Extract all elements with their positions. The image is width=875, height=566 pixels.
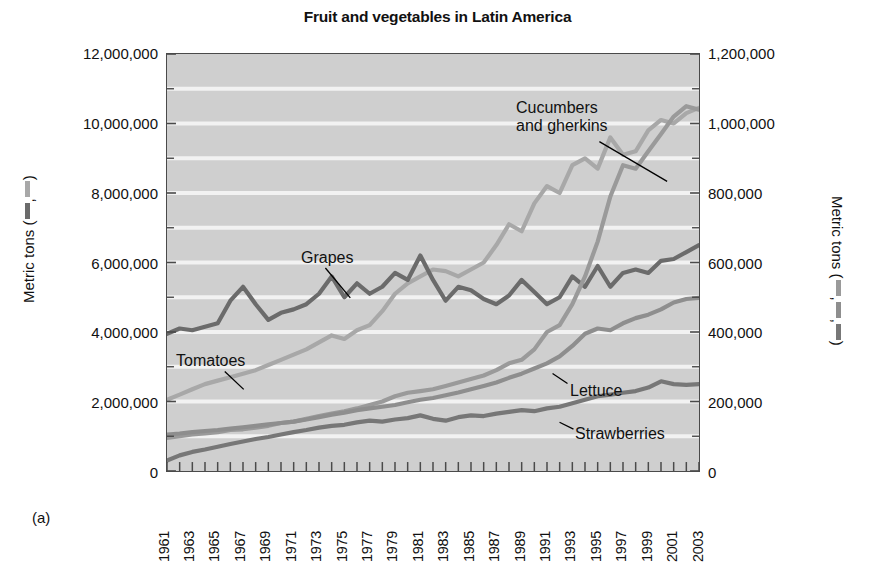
x-tick-label: 1997 [613,531,629,562]
right-tick-label: 400,000 [708,324,762,341]
x-tick-label: 1987 [486,531,502,562]
left-tick-label: 0 [150,464,158,481]
right-axis-title-sep2: , [829,319,846,323]
left-tick-label: 6,000,000 [91,254,158,271]
left-tick-label: 2,000,000 [91,394,158,411]
right-tick-label: 200,000 [708,394,762,411]
x-tick-label: 2003 [690,531,706,562]
series-label-tomatoes: Tomatoes [176,352,245,370]
right-axis-title-suffix: ) [829,341,846,346]
legend-swatch-grapes [25,203,30,219]
series-label-line1: Cucumbers [516,99,608,117]
x-tick-label: 1965 [206,531,222,562]
x-tick-label: 1973 [308,531,324,562]
left-tick-label: 12,000,000 [83,45,158,62]
chart-figure: Fruit and vegetables in Latin America 02… [0,0,875,566]
right-axis-title-prefix: Metric tons ( [829,196,846,279]
x-tick-label: 1983 [435,531,451,562]
x-tick-label: 1989 [512,531,528,562]
x-tick-label: 1995 [588,531,604,562]
series-line-grapes [167,245,699,334]
left-tick-label: 4,000,000 [91,324,158,341]
right-tick-label: 800,000 [708,184,762,201]
legend-swatch-lettuce [836,302,841,318]
left-tick-label: 10,000,000 [83,114,158,131]
x-tick-label: 1999 [639,531,655,562]
legend-swatch-tomatoes [25,181,30,197]
series-label-strawberries: Strawberries [575,425,665,443]
right-tick-label: 1,200,000 [708,45,775,62]
left-tick-label: 8,000,000 [91,184,158,201]
right-axis-title-sep1: , [829,297,846,301]
right-tick-label: 1,000,000 [708,114,775,131]
series-line-tomatoes [167,108,699,400]
x-tick-label: 1969 [257,531,273,562]
x-tick-label: 1991 [537,531,553,562]
x-axis-tick-labels: 1961196319651967196919711973197519771979… [166,478,700,562]
x-tick-label: 1977 [359,531,375,562]
plot-canvas [167,54,699,471]
x-tick-label: 2001 [664,531,680,562]
leader-lettuce [553,373,568,383]
left-axis-title: Metric tons ( , ) [20,175,37,303]
right-axis-tick-labels: 0200,000400,000600,000800,0001,000,0001,… [708,0,838,566]
x-tick-label: 1971 [283,531,299,562]
right-axis-title: Metric tons ( , , ) [829,196,846,346]
x-tick-label: 1961 [156,531,172,562]
legend-swatch-cucumbers [836,280,841,296]
x-tick-label: 1981 [410,531,426,562]
x-tick-label: 1993 [562,531,578,562]
leader-cucumbers [599,142,667,182]
right-tick-label: 0 [708,464,716,481]
left-axis-title-sep: , [20,198,37,202]
x-tick-label: 1979 [384,531,400,562]
series-label-lettuce: Lettuce [570,382,622,400]
plot-area [166,53,700,472]
x-tick-label: 1985 [461,531,477,562]
x-tick-label: 1963 [181,531,197,562]
series-label-grapes: Grapes [301,249,353,267]
legend-swatch-strawberries [836,324,841,340]
left-axis-title-prefix: Metric tons ( [20,220,37,303]
leader-strawberries [560,422,574,429]
x-tick-label: 1967 [232,531,248,562]
panel-label: (a) [32,509,50,526]
series-label-cucumbers-and-gherkins: Cucumbersand gherkins [516,99,608,135]
series-label-line2: and gherkins [516,117,608,135]
x-tick-label: 1975 [334,531,350,562]
right-tick-label: 600,000 [708,254,762,271]
left-axis-title-suffix: ) [20,175,37,180]
